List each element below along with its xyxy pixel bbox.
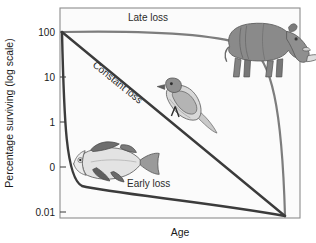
y-tick-label-1: 1: [49, 117, 55, 128]
chart-svg: 100 10 1 0 0.01 Percentage surviving (lo…: [0, 0, 316, 243]
early-loss-label: Early loss: [127, 178, 170, 189]
late-loss-label: Late loss: [128, 12, 168, 23]
x-axis-title: Age: [171, 226, 190, 238]
y-tick-label-0: 0: [49, 162, 55, 173]
y-tick-label-10: 10: [44, 72, 56, 83]
y-tick-label-100: 100: [38, 27, 55, 38]
y-tick-label-001: 0.01: [36, 207, 56, 218]
y-axis-title: Percentage surviving (log scale): [3, 38, 15, 187]
survivorship-curve-figure: 100 10 1 0 0.01 Percentage surviving (lo…: [0, 0, 316, 243]
